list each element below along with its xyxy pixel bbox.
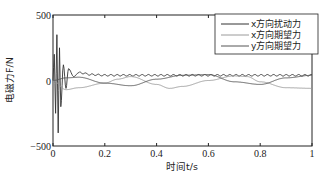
series-line-1 [53, 76, 312, 90]
y-axis-label: 电磁力F/N [4, 57, 15, 103]
legend: x方向扰动力 x方向期望力 y方向期望力 [215, 14, 318, 54]
chart: 00.20.40.60.81−5000500 电磁力F/N 时间t/s x方向扰… [0, 0, 325, 182]
x-tick-label: 0.8 [254, 148, 267, 159]
legend-label-x-desired: x方向期望力 [251, 29, 301, 40]
y-tick-label: 0 [46, 76, 51, 87]
x-tick-label: 0.4 [150, 148, 163, 159]
x-axis-label: 时间t/s [166, 161, 198, 172]
x-tick-label: 0.2 [99, 148, 112, 159]
x-tick-label: 0 [51, 148, 56, 159]
x-tick-label: 1 [310, 148, 315, 159]
legend-label-y-desired: y方向期望力 [251, 40, 301, 51]
legend-label-x-disturbance: x方向扰动力 [251, 18, 301, 29]
y-tick-label: 500 [36, 10, 51, 21]
x-tick-label: 0.6 [202, 148, 215, 159]
y-tick-label: −500 [30, 141, 51, 152]
